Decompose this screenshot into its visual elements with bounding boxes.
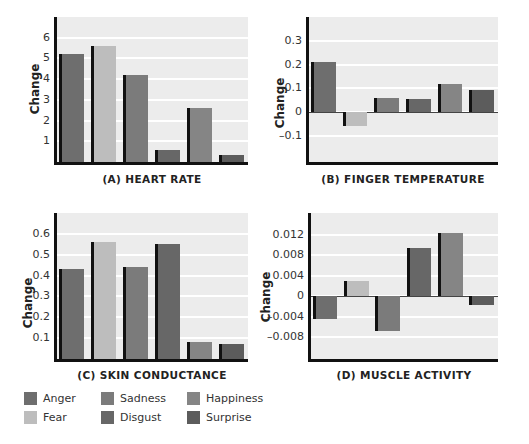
- bar-sadness: [123, 75, 148, 162]
- y-tick-label: 0.1: [258, 82, 302, 94]
- legend-label: Surprise: [206, 411, 252, 424]
- bar-anger: [311, 62, 336, 112]
- plot-area: [310, 213, 498, 359]
- y-tick-label: 0.1: [6, 332, 50, 344]
- gridline: [56, 99, 248, 101]
- y-tick-label: 0.5: [6, 249, 50, 261]
- gridline: [310, 275, 498, 277]
- x-axis: [54, 359, 248, 362]
- gridline: [308, 64, 498, 66]
- bar-disgust: [155, 150, 180, 162]
- y-tick-label: –0.004: [260, 311, 304, 323]
- legend-item-fear: Fear: [24, 411, 67, 424]
- bar-sadness: [375, 296, 399, 331]
- y-axis-label: Change: [21, 273, 35, 333]
- y-tick-label: 0.2: [258, 59, 302, 71]
- gridline: [310, 336, 498, 338]
- gridline: [56, 295, 248, 297]
- legend-item-happiness: Happiness: [187, 392, 263, 405]
- chart-title: (B) FINGER TEMPERATURE: [308, 173, 498, 185]
- swatch-icon: [24, 392, 37, 405]
- gridline: [56, 254, 248, 256]
- gridline: [310, 234, 498, 236]
- legend-item-sadness: Sadness: [101, 392, 166, 405]
- y-axis: [54, 213, 57, 361]
- y-tick-label: 3: [6, 94, 50, 106]
- gridline: [56, 37, 248, 39]
- y-tick-label: 0.012: [260, 229, 304, 241]
- gridline: [310, 254, 498, 256]
- y-tick-label: 6: [6, 32, 50, 44]
- legend-item-anger: Anger: [24, 392, 76, 405]
- swatch-icon: [101, 411, 114, 424]
- bar-happiness: [187, 108, 212, 162]
- x-axis: [306, 162, 498, 165]
- bar-sadness: [123, 267, 148, 359]
- y-tick-label: 0.008: [260, 249, 304, 261]
- chart-title: (A) HEART RATE: [56, 173, 248, 185]
- gridline: [56, 57, 248, 59]
- gridline: [56, 140, 248, 142]
- chart-title: (C) SKIN CONDUCTANCE: [56, 369, 248, 381]
- gridline: [56, 316, 248, 318]
- gridline: [308, 40, 498, 42]
- y-tick-label: 1: [6, 135, 50, 147]
- bar-fear: [343, 112, 368, 126]
- bar-happiness: [438, 233, 462, 297]
- zero-line: [308, 112, 498, 113]
- bar-surprise: [219, 155, 244, 162]
- bar-anger: [313, 296, 337, 319]
- bar-disgust: [406, 99, 431, 112]
- legend-label: Anger: [43, 392, 76, 405]
- gridline: [56, 78, 248, 80]
- bar-fear: [344, 281, 368, 296]
- y-axis-label: Change: [28, 59, 42, 119]
- gridline: [56, 233, 248, 235]
- y-tick-label: 0.3: [258, 35, 302, 47]
- bar-disgust: [155, 244, 180, 359]
- legend-label: Fear: [43, 411, 67, 424]
- bar-disgust: [407, 248, 431, 296]
- legend-item-disgust: Disgust: [101, 411, 161, 424]
- legend-label: Disgust: [120, 411, 161, 424]
- bar-anger: [59, 269, 84, 359]
- y-axis: [54, 17, 57, 164]
- bar-surprise: [469, 90, 494, 113]
- y-tick-label: 0.004: [260, 270, 304, 282]
- bar-surprise: [219, 344, 244, 359]
- swatch-icon: [24, 411, 37, 424]
- x-axis: [308, 359, 498, 362]
- bar-fear: [91, 242, 116, 359]
- bar-anger: [59, 54, 84, 162]
- y-tick-label: 4: [6, 73, 50, 85]
- y-tick-label: 0.4: [6, 270, 50, 282]
- y-tick-label: 0.3: [6, 290, 50, 302]
- gridline: [308, 135, 498, 137]
- y-tick-label: 0: [258, 106, 302, 118]
- plot-area: [56, 17, 248, 162]
- swatch-icon: [101, 392, 114, 405]
- bar-sadness: [374, 98, 399, 112]
- bar-fear: [91, 46, 116, 162]
- bar-happiness: [438, 84, 463, 113]
- gridline: [56, 275, 248, 277]
- y-tick-label: –0.1: [258, 130, 302, 142]
- y-axis: [306, 17, 309, 164]
- plot-area: [56, 213, 248, 359]
- chart-title: (D) MUSCLE ACTIVITY: [310, 369, 498, 381]
- y-tick-label: 2: [6, 115, 50, 127]
- y-tick-label: 0.2: [6, 311, 50, 323]
- y-tick-label: 0.6: [6, 228, 50, 240]
- swatch-icon: [187, 392, 200, 405]
- y-tick-label: –0.008: [260, 331, 304, 343]
- gridline: [56, 120, 248, 122]
- gridline: [56, 337, 248, 339]
- y-tick-label: 0: [260, 290, 304, 302]
- bar-surprise: [469, 296, 493, 305]
- x-axis: [54, 162, 248, 165]
- swatch-icon: [187, 411, 200, 424]
- bar-happiness: [187, 342, 212, 359]
- legend-label: Sadness: [120, 392, 166, 405]
- legend-label: Happiness: [206, 392, 263, 405]
- gridline: [310, 316, 498, 318]
